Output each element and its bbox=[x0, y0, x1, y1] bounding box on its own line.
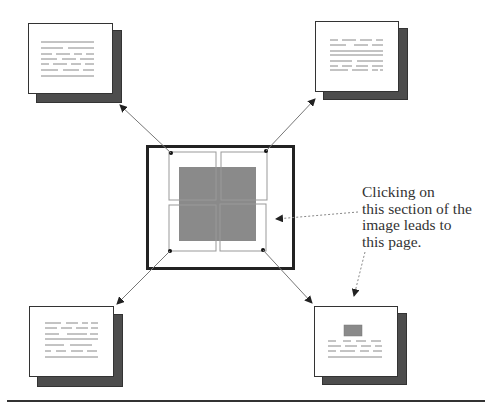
text-lines-bottom-right bbox=[328, 341, 382, 357]
caption-line: image leads to bbox=[362, 217, 472, 234]
caption-line: Clicking on bbox=[362, 184, 472, 201]
caption-line: this page. bbox=[362, 234, 472, 251]
image-map-frame bbox=[148, 147, 294, 269]
page-image-placeholder bbox=[344, 325, 362, 336]
caption: Clicking on this section of the image le… bbox=[362, 184, 472, 250]
horizontal-rule bbox=[7, 400, 485, 402]
text-lines-bottom-left bbox=[45, 323, 98, 357]
text-lines-top-right bbox=[330, 40, 383, 70]
caption-line: this section of the bbox=[362, 201, 472, 218]
text-lines-top-left bbox=[41, 42, 94, 76]
